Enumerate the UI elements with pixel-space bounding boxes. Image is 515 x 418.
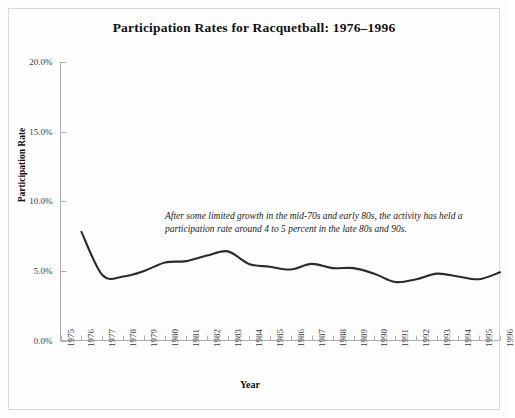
x-tick-label: 1983	[233, 329, 243, 347]
y-tick-label: 0.0%	[13, 336, 53, 346]
x-tick-label: 1987	[317, 329, 327, 347]
x-tick-label: 1993	[442, 329, 452, 347]
x-tick-label: 1992	[421, 329, 431, 347]
x-tick-label: 1980	[170, 329, 180, 347]
data-series-group	[81, 232, 500, 282]
y-tick-label: 5.0%	[13, 266, 53, 276]
x-tick-label: 1991	[400, 329, 410, 347]
x-tick-label: 1986	[296, 329, 306, 347]
series-line-racquetball	[81, 232, 500, 282]
x-tick-label: 1984	[254, 329, 264, 347]
chart-annotation: After some limited growth in the mid-70s…	[165, 210, 485, 235]
x-tick-label: 1988	[338, 329, 348, 347]
x-tick-label: 1994	[463, 329, 473, 347]
y-tick-label: 20.0%	[13, 57, 53, 67]
y-axis-ticks	[61, 63, 67, 342]
x-tick-label: 1975	[66, 329, 76, 347]
x-tick-label: 1976	[86, 329, 96, 347]
x-tick-label: 1978	[128, 329, 138, 347]
x-tick-label: 1981	[191, 329, 201, 347]
x-tick-label: 1989	[359, 329, 369, 347]
x-tick-label: 1977	[107, 329, 117, 347]
x-tick-label: 1982	[212, 329, 222, 347]
x-tick-label: 1995	[484, 329, 494, 347]
x-tick-label: 1985	[275, 329, 285, 347]
axes	[61, 62, 501, 341]
x-tick-label: 1990	[379, 329, 389, 347]
x-tick-label: 1996	[505, 329, 515, 347]
x-axis-title: Year	[205, 379, 295, 390]
y-axis-title: Participation Rate	[17, 105, 27, 225]
x-tick-label: 1979	[149, 329, 159, 347]
